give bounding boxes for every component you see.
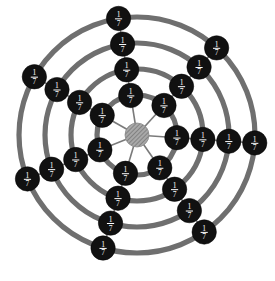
graph-node[interactable]: 171/7: [148, 156, 172, 180]
node-fraction-denominator: 7: [173, 190, 177, 199]
node-fraction-denominator: 7: [100, 116, 104, 125]
node-fraction-denominator: 7: [125, 70, 129, 79]
node-fraction-denominator: 7: [109, 224, 113, 233]
node-fraction-denominator: 7: [253, 143, 257, 152]
node-fraction-denominator: 7: [187, 211, 191, 220]
graph-node[interactable]: 171/7: [90, 103, 114, 127]
graph-node[interactable]: 171/7: [187, 55, 211, 79]
graph-node[interactable]: 171/7: [88, 138, 112, 162]
node-fraction-numerator: 1: [55, 81, 59, 90]
node-fraction-numerator: 1: [100, 107, 104, 116]
graph-node[interactable]: 171/7: [91, 236, 115, 260]
graph-node[interactable]: 171/7: [45, 77, 69, 101]
node-fraction-numerator: 1: [215, 40, 219, 49]
node-fraction-numerator: 1: [78, 94, 82, 103]
node-fraction-denominator: 7: [121, 45, 125, 54]
node-fraction-numerator: 1: [32, 68, 36, 77]
node-fraction-numerator: 1: [116, 190, 120, 199]
node-fraction-denominator: 7: [50, 170, 54, 179]
graph-node[interactable]: 171/7: [152, 93, 176, 117]
graph-node[interactable]: 171/7: [217, 129, 241, 153]
center-hub-group: [125, 123, 149, 147]
node-fraction-numerator: 1: [197, 59, 201, 68]
graph-node[interactable]: 171/7: [204, 36, 228, 60]
node-fraction-denominator: 7: [98, 150, 102, 159]
node-fraction-numerator: 1: [124, 165, 128, 174]
web-graph-figure: 171/7171/7171/7171/7171/7171/7171/7171/7…: [0, 0, 275, 281]
node-fraction-denominator: 7: [101, 248, 105, 257]
node-fraction-numerator: 1: [162, 97, 166, 106]
graph-node[interactable]: 171/7: [114, 58, 138, 82]
node-fraction-denominator: 7: [78, 103, 82, 112]
node-fraction-numerator: 1: [129, 87, 133, 96]
node-fraction-numerator: 1: [101, 240, 105, 249]
graph-node[interactable]: 171/7: [22, 65, 46, 89]
graph-node[interactable]: 171/7: [162, 177, 186, 201]
node-fraction-denominator: 7: [227, 142, 231, 151]
graph-node[interactable]: 171/7: [113, 161, 137, 185]
node-fraction-denominator: 7: [158, 168, 162, 177]
graph-node[interactable]: 171/7: [106, 6, 130, 30]
graph-node[interactable]: 171/7: [67, 90, 91, 114]
node-fraction-numerator: 1: [125, 61, 129, 70]
node-fraction-denominator: 7: [117, 19, 121, 28]
node-fraction-numerator: 1: [173, 181, 177, 190]
node-fraction-numerator: 1: [175, 129, 179, 138]
node-fraction-denominator: 7: [55, 90, 59, 99]
node-fraction-denominator: 7: [32, 77, 36, 86]
node-fraction-denominator: 7: [180, 87, 184, 96]
web-graph-canvas: 171/7171/7171/7171/7171/7171/7171/7171/7…: [0, 0, 275, 281]
node-fraction-denominator: 7: [74, 160, 78, 169]
node-fraction-numerator: 1: [158, 159, 162, 168]
node-fraction-numerator: 1: [202, 224, 206, 233]
node-fraction-denominator: 7: [26, 179, 30, 188]
graph-node[interactable]: 171/7: [119, 83, 143, 107]
node-fraction-denominator: 7: [162, 106, 166, 115]
graph-node[interactable]: 171/7: [192, 220, 216, 244]
node-fraction-numerator: 1: [26, 171, 30, 180]
graph-node[interactable]: 171/7: [169, 74, 193, 98]
node-fraction-denominator: 7: [201, 140, 205, 149]
node-fraction-denominator: 7: [116, 199, 120, 208]
node-fraction-numerator: 1: [187, 202, 191, 211]
graph-node[interactable]: 171/7: [15, 167, 39, 191]
graph-node[interactable]: 171/7: [64, 147, 88, 171]
node-fraction-denominator: 7: [175, 138, 179, 147]
node-fraction-numerator: 1: [227, 133, 231, 142]
graph-node[interactable]: 171/7: [110, 32, 134, 56]
node-fraction-numerator: 1: [253, 135, 257, 144]
graph-node[interactable]: 171/7: [177, 198, 201, 222]
node-fraction-numerator: 1: [98, 141, 102, 150]
node-fraction-numerator: 1: [201, 131, 205, 140]
node-fraction-denominator: 7: [129, 96, 133, 105]
node-fraction-denominator: 7: [215, 48, 219, 57]
graph-node[interactable]: 171/7: [165, 125, 189, 149]
node-fraction-numerator: 1: [117, 10, 121, 19]
node-fraction-denominator: 7: [124, 174, 128, 183]
node-fraction-numerator: 1: [180, 78, 184, 87]
graph-node[interactable]: 171/7: [98, 211, 122, 235]
node-fraction-numerator: 1: [109, 215, 113, 224]
node-fraction-denominator: 7: [202, 232, 206, 241]
node-fraction-numerator: 1: [74, 151, 78, 160]
center-hub-node[interactable]: [125, 123, 149, 147]
graph-node[interactable]: 171/7: [243, 131, 267, 155]
node-fraction-numerator: 1: [121, 36, 125, 45]
graph-node[interactable]: 171/7: [39, 157, 63, 181]
graph-node[interactable]: 171/7: [191, 127, 215, 151]
node-fraction-denominator: 7: [197, 67, 201, 76]
graph-node[interactable]: 171/7: [106, 186, 130, 210]
node-fraction-numerator: 1: [50, 161, 54, 170]
